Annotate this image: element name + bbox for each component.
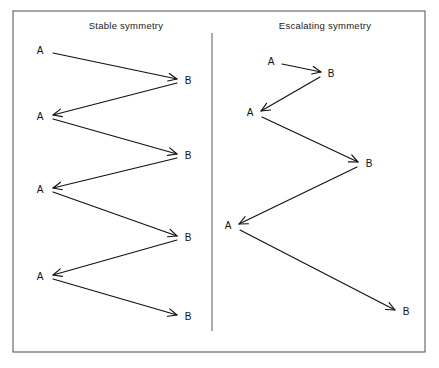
node-label-stable-symmetry-b-1: B: [185, 75, 192, 86]
node-label-escalating-symmetry-b-3: B: [366, 158, 373, 169]
node-label-stable-symmetry-b-5: B: [185, 232, 192, 243]
panel-title-stable: Stable symmetry: [89, 20, 164, 31]
arrow-line-stable-symmetry-5: [53, 240, 177, 275]
arrow-line-escalating-symmetry-3: [239, 167, 357, 224]
node-label-stable-symmetry-a-4: A: [37, 184, 44, 195]
arrow-line-stable-symmetry-0: [53, 53, 177, 79]
node-label-escalating-symmetry-a-4: A: [225, 220, 232, 231]
panel-stable-symmetry: Stable symmetry ABABABAB: [37, 20, 192, 322]
panel-title-escalating: Escalating symmetry: [279, 20, 371, 31]
node-label-stable-symmetry-a-0: A: [37, 45, 44, 56]
arrow-line-stable-symmetry-4: [53, 192, 177, 236]
arrow-line-stable-symmetry-3: [53, 158, 177, 188]
figure-frame: [13, 11, 425, 352]
arrow-line-stable-symmetry-1: [53, 83, 177, 115]
arrows-escalating: [239, 64, 395, 310]
node-label-escalating-symmetry-a-2: A: [247, 107, 254, 118]
node-label-stable-symmetry-a-2: A: [37, 111, 44, 122]
arrow-line-stable-symmetry-6: [53, 279, 177, 315]
arrow-line-escalating-symmetry-4: [240, 230, 395, 310]
node-label-stable-symmetry-b-3: B: [185, 150, 192, 161]
arrow-head-escalating-symmetry-1: [261, 103, 270, 111]
node-label-escalating-symmetry-b-1: B: [328, 68, 335, 79]
node-label-escalating-symmetry-a-0: A: [268, 56, 275, 67]
node-label-escalating-symmetry-b-5: B: [403, 306, 410, 317]
symmetry-diagram: Stable symmetry ABABABAB Escalating symm…: [0, 0, 439, 368]
node-label-stable-symmetry-b-7: B: [185, 311, 192, 322]
node-label-stable-symmetry-a-6: A: [37, 271, 44, 282]
arrow-line-escalating-symmetry-1: [261, 77, 320, 111]
arrow-line-escalating-symmetry-2: [262, 117, 358, 162]
arrows-stable: [53, 53, 177, 316]
panel-escalating-symmetry: Escalating symmetry ABABAB: [225, 20, 410, 317]
arrow-line-stable-symmetry-2: [53, 119, 177, 154]
figure-root: Stable symmetry ABABABAB Escalating symm…: [0, 0, 439, 368]
